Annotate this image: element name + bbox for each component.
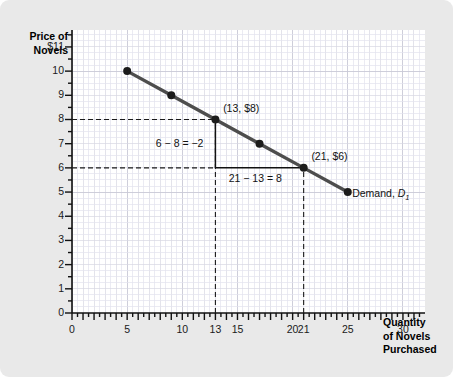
demand-curve-subscript: 1 xyxy=(405,193,409,202)
y-tick-label: 1 xyxy=(30,282,64,294)
y-tick-label: 8 xyxy=(30,112,64,124)
y-tick-label: 9 xyxy=(30,88,64,100)
annotation-rise: 6 − 8 = −2 xyxy=(156,137,204,149)
x-tick-label: 21 xyxy=(289,323,319,335)
x-tick-label: 25 xyxy=(333,323,363,335)
x-axis-title-line3: Purchased xyxy=(383,343,449,357)
annotation-run: 21 − 13 = 8 xyxy=(229,172,282,184)
y-tick-label: 4 xyxy=(30,209,64,221)
demand-label-text: Demand, xyxy=(352,187,398,199)
y-tick-label: 6 xyxy=(30,161,64,173)
y-tick-label: $11 xyxy=(30,40,64,52)
y-tick-label: 5 xyxy=(30,185,64,197)
annotation-point-b: (21, $6) xyxy=(311,150,347,162)
x-tick-label: 0 xyxy=(57,323,87,335)
x-tick-label: 30 xyxy=(388,323,418,335)
x-tick-label: 5 xyxy=(112,323,142,335)
y-tick-label: 0 xyxy=(30,306,64,318)
annotation-point-a: (13, $8) xyxy=(223,102,259,114)
annotation-demand-label: Demand, D1 xyxy=(352,187,409,202)
y-tick-label: 10 xyxy=(30,64,64,76)
y-tick-label: 3 xyxy=(30,233,64,245)
x-tick-label: 15 xyxy=(222,323,252,335)
y-tick-label: 7 xyxy=(30,137,64,149)
figure-panel: Price of Novels Quantity of Novels Purch… xyxy=(0,0,453,377)
x-tick-label: 10 xyxy=(167,323,197,335)
demand-curve-symbol: D1 xyxy=(398,187,410,199)
y-tick-label: 2 xyxy=(30,258,64,270)
